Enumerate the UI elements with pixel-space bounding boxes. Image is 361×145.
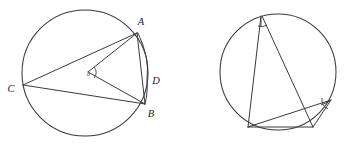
center-point-label: o <box>87 71 90 77</box>
vertex-label-A: A <box>137 16 145 27</box>
vertex-label-C: C <box>7 83 15 94</box>
segment-chord-A-C <box>23 33 137 85</box>
segment-arc-A-D-B <box>138 33 148 104</box>
right-circle-outline <box>220 14 336 130</box>
left-circle-group: o A B C D <box>7 10 160 136</box>
diagram-canvas: o A B C D <box>0 0 361 145</box>
segment-chord-R-S <box>313 100 331 127</box>
geometry-figure: o A B C D <box>0 0 361 145</box>
vertex-label-D: D <box>151 75 160 86</box>
right-circle-group <box>220 14 336 130</box>
segment-chord-P-Q <box>248 16 261 127</box>
segment-chord-P-R <box>262 16 313 127</box>
left-circle-outline <box>22 10 148 136</box>
segment-chord-C-B <box>23 85 145 104</box>
vertex-label-B: B <box>148 108 155 119</box>
